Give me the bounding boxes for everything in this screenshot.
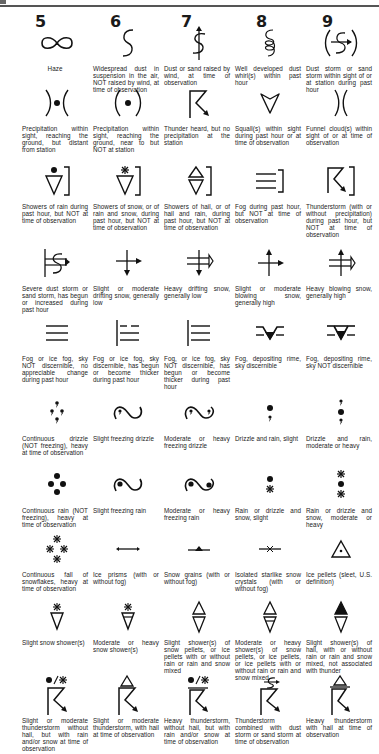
slight-freezing-drizzle-icon bbox=[93, 392, 163, 434]
symbol-caption: Precipitation within sight, reaching the… bbox=[93, 125, 159, 153]
symbol-cell: Slight or moderate thunderstorm without … bbox=[22, 674, 92, 752]
symbol-cell: Showers of rain during past hour, but NO… bbox=[22, 160, 92, 224]
symbol-caption: Showers of hail, or of hail and rain, du… bbox=[164, 203, 230, 231]
symbol-caption: Funnel cloud(s) within sight of or at ti… bbox=[306, 125, 372, 146]
snow-showers-past-hour-icon bbox=[93, 160, 163, 202]
drizzle-rain-heavy-icon bbox=[306, 392, 376, 434]
symbol-caption: Slight or moderate blowing snow, general… bbox=[235, 285, 301, 306]
fog-thickening-sky-hidden-icon bbox=[164, 312, 234, 354]
symbol-caption: Drizzle and rain, slight bbox=[235, 435, 301, 442]
symbol-cell: Severe dust storm or sand storm, has beg… bbox=[22, 242, 92, 313]
funnel-cloud-icon bbox=[306, 82, 376, 124]
symbol-cell: Drizzle and rain, moderate or heavy bbox=[306, 392, 376, 449]
symbol-cell: Fog during past hour, but NOT at time of… bbox=[235, 160, 305, 224]
dust-whirls-icon bbox=[235, 22, 305, 64]
symbol-cell: Heavy blowing snow, generally high bbox=[306, 242, 376, 299]
symbol-caption: Fog during past hour, but NOT at time of… bbox=[235, 203, 301, 224]
fog-thickening-sky-visible-icon bbox=[93, 312, 163, 354]
symbol-cell: Rain or drizzle and snow, moderate or he… bbox=[306, 464, 376, 528]
symbol-cell: Slight or moderate blowing snow, general… bbox=[235, 242, 305, 306]
symbol-caption: Severe dust storm or sand storm, has beg… bbox=[22, 285, 88, 313]
symbol-cell: Slight shower(s) of snow pellets, or ice… bbox=[164, 596, 234, 674]
symbol-caption: Precipitation within sight, reaching the… bbox=[22, 125, 88, 153]
symbol-cell: Well developed dust whirl(s) within past… bbox=[235, 22, 305, 86]
symbol-cell: Thunderstorm combined with dust storm or… bbox=[235, 674, 305, 745]
symbol-caption: Haze bbox=[22, 65, 88, 72]
blowing-snow-high-icon bbox=[235, 242, 305, 284]
heavy-freezing-rain-icon bbox=[164, 464, 234, 506]
symbol-cell: Ice prisms (with or without fog) bbox=[93, 528, 163, 585]
symbol-caption: Thunderstorm (with or without precipitat… bbox=[306, 203, 372, 238]
heavy-drizzle-icon bbox=[22, 392, 92, 434]
symbol-cell: Moderate or heavy freezing drizzle bbox=[164, 392, 234, 449]
symbol-caption: Slight shower(s) of hail, with or withou… bbox=[306, 639, 372, 674]
drizzle-rain-slight-icon bbox=[235, 392, 305, 434]
symbol-caption: Heavy blowing snow, generally high bbox=[306, 285, 372, 299]
symbol-row: Fog or ice fog, sky NOT discernible, no … bbox=[22, 312, 377, 392]
symbol-row: Slight or moderate thunderstorm without … bbox=[22, 674, 377, 754]
symbol-cell: Rain or drizzle and snow, slight bbox=[235, 464, 305, 521]
symbol-cell: Snow grains (with or without fog) bbox=[164, 528, 234, 585]
thunderstorm-dust-storm-icon bbox=[235, 674, 305, 716]
thunderstorm-rain-snow-icon bbox=[22, 674, 92, 716]
symbol-caption: Slight or moderate drifting snow, genera… bbox=[93, 285, 159, 306]
symbol-caption: Rain or drizzle and snow, slight bbox=[235, 507, 301, 521]
symbol-row: Continuous rain (NOT freezing), heavy at… bbox=[22, 464, 377, 528]
symbol-caption: Heavy thunderstorm, without hail, but wi… bbox=[164, 717, 230, 745]
symbol-row: Haze Widespread dust in suspension in th… bbox=[22, 22, 377, 82]
symbol-caption: Slight snow shower(s) bbox=[22, 639, 88, 646]
symbol-cell: Thunderstorm (with or without precipitat… bbox=[306, 160, 376, 238]
ice-prisms-icon bbox=[93, 528, 163, 570]
symbol-caption: Slight freezing drizzle bbox=[93, 435, 159, 442]
symbol-row: Severe dust storm or sand storm, has beg… bbox=[22, 242, 377, 312]
symbol-cell: Fog or ice fog, sky NOT discernible, no … bbox=[22, 312, 92, 383]
symbol-cell: Drizzle and rain, slight bbox=[235, 392, 305, 442]
symbol-caption: Continuous rain (NOT freezing), heavy at… bbox=[22, 507, 88, 528]
symbol-cell: Haze bbox=[22, 22, 92, 72]
symbol-cell: Showers of hail, or of hail and rain, du… bbox=[164, 160, 234, 231]
symbol-caption: Thunder heard, but no precipitation at t… bbox=[164, 125, 230, 146]
rain-snow-heavy-icon bbox=[306, 464, 376, 506]
symbol-caption: Continuous fall of snowflakes, heavy at … bbox=[22, 571, 88, 592]
thunderstorm-hail-icon bbox=[93, 674, 163, 716]
symbol-cell: Continuous drizzle (NOT freezing), heavy… bbox=[22, 392, 92, 456]
symbol-cell: Dust or sand raised by wind, at time of … bbox=[164, 22, 234, 86]
symbol-cell: Moderate or heavy shower(s) of snow pell… bbox=[235, 596, 305, 681]
symbol-caption: Slight or moderate thunderstorm without … bbox=[22, 717, 88, 752]
symbol-cell: Slight freezing drizzle bbox=[93, 392, 163, 442]
slight-hail-showers-icon bbox=[306, 596, 376, 638]
symbol-caption: Snow grains (with or without fog) bbox=[164, 571, 230, 585]
page-edge-fragment bbox=[0, 0, 6, 4]
symbol-cell: Thunder heard, but no precipitation at t… bbox=[164, 82, 234, 146]
symbol-cell: Heavy thunderstorm with hail at time of … bbox=[306, 674, 376, 738]
symbol-cell: Ice pellets (sleet, U.S. definition) bbox=[306, 528, 376, 585]
symbol-caption: Moderate or heavy freezing drizzle bbox=[164, 435, 230, 449]
heavy-freezing-drizzle-icon bbox=[164, 392, 234, 434]
snow-grains-icon bbox=[164, 528, 234, 570]
symbol-caption: Ice pellets (sleet, U.S. definition) bbox=[306, 571, 372, 585]
symbol-cell: Slight or moderate drifting snow, genera… bbox=[93, 242, 163, 306]
symbol-cell: Precipitation within sight, reaching the… bbox=[93, 82, 163, 153]
symbol-cell: Moderate or heavy freezing rain bbox=[164, 464, 234, 521]
symbol-caption: Isolated starlike snow crystals (with or… bbox=[235, 571, 301, 592]
slight-snow-showers-icon bbox=[22, 596, 92, 638]
severe-dust-storm-icon bbox=[22, 242, 92, 284]
drifting-snow-low-icon bbox=[93, 242, 163, 284]
symbol-caption: Showers of rain during past hour, but NO… bbox=[22, 203, 88, 224]
heavy-snow-showers-icon bbox=[93, 596, 163, 638]
heavy-blowing-snow-icon bbox=[306, 242, 376, 284]
symbol-caption: Thunderstorm combined with dust storm or… bbox=[235, 717, 301, 745]
symbol-caption: Ice prisms (with or without fog) bbox=[93, 571, 159, 585]
slight-snow-pellet-showers-icon bbox=[164, 596, 234, 638]
symbol-caption: Fog, or ice fog, sky NOT discernible, ha… bbox=[164, 355, 230, 390]
rime-fog-sky-visible-icon bbox=[235, 312, 305, 354]
symbol-caption: Heavy drifting snow, generally low bbox=[164, 285, 230, 299]
heavy-snow-icon bbox=[22, 528, 92, 570]
symbol-caption: Continuous drizzle (NOT freezing), heavy… bbox=[22, 435, 88, 456]
heavy-rain-icon bbox=[22, 464, 92, 506]
symbol-cell: Continuous rain (NOT freezing), heavy at… bbox=[22, 464, 92, 528]
symbol-caption: Fog or ice fog, sky discernible, has beg… bbox=[93, 355, 159, 383]
slight-freezing-rain-icon bbox=[93, 464, 163, 506]
thunder-heard-icon bbox=[164, 82, 234, 124]
ice-pellets-icon bbox=[306, 528, 376, 570]
